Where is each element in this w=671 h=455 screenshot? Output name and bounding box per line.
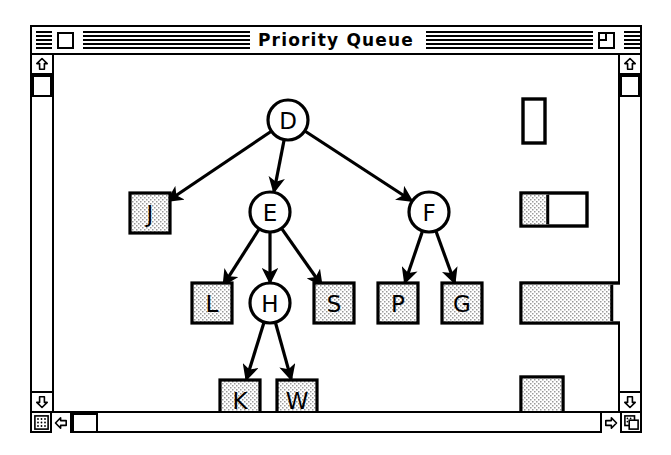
tree-node-D[interactable]: D <box>268 100 308 140</box>
vertical-indicator[interactable] <box>523 99 545 143</box>
tree-nodes: DJEFLHSPGKW <box>130 100 482 413</box>
tree-node-label: F <box>422 200 435 226</box>
left-vertical-scrollbar[interactable] <box>32 55 52 411</box>
tree-node-G[interactable]: G <box>442 283 482 323</box>
priority-queue-window: Priority Queue DJEFLHSPGK <box>30 25 642 433</box>
tree-edge <box>168 132 270 201</box>
tree-edge <box>276 323 291 379</box>
scroll-left-arrow[interactable] <box>52 413 72 433</box>
large-progress-bar[interactable] <box>521 283 626 323</box>
tree-edge <box>306 131 412 200</box>
horizontal-scrollbar[interactable] <box>52 411 620 431</box>
title-bar-stripes-left <box>36 31 52 49</box>
tree-node-H[interactable]: H <box>250 283 290 323</box>
close-box[interactable] <box>57 32 74 49</box>
tree-node-J[interactable]: J <box>130 193 170 233</box>
scroll-down-arrow-right[interactable] <box>620 391 640 411</box>
tree-node-label: W <box>286 388 309 413</box>
tree-edge <box>405 232 422 282</box>
left-vertical-scroll-thumb[interactable] <box>32 75 52 97</box>
tree-edge <box>224 230 259 285</box>
filled-square[interactable] <box>521 377 563 413</box>
window-title-bar[interactable]: Priority Queue <box>32 27 640 55</box>
tree-node-label: J <box>145 201 154 227</box>
grow-box[interactable] <box>620 411 640 431</box>
grow-box-icon <box>624 415 639 430</box>
scroll-up-arrow-right[interactable] <box>620 55 640 75</box>
arrow-down-icon <box>35 395 49 409</box>
arrow-down-icon <box>623 395 637 409</box>
tree-node-F[interactable]: F <box>409 192 449 232</box>
title-bar-stripes-mid-right <box>426 31 593 49</box>
tree-edge <box>436 232 454 283</box>
scroll-down-arrow-left[interactable] <box>32 391 52 411</box>
right-vertical-scroll-thumb[interactable] <box>620 75 640 97</box>
tree-node-K[interactable]: K <box>220 380 260 413</box>
size-box[interactable] <box>32 411 52 431</box>
arrow-up-icon <box>623 57 637 71</box>
tree-node-label: G <box>453 291 471 317</box>
tree-node-label: S <box>327 291 342 317</box>
tree-edge <box>274 141 284 192</box>
right-vertical-scrollbar[interactable] <box>620 55 640 411</box>
tree-node-label: H <box>261 291 278 317</box>
tree-node-label: E <box>263 200 278 226</box>
window-title: Priority Queue <box>250 30 422 50</box>
title-bar-stripes-mid-left <box>83 31 250 49</box>
small-progress-bar[interactable] <box>521 193 587 226</box>
tree-node-label: K <box>232 388 248 413</box>
scroll-up-arrow-left[interactable] <box>32 55 52 75</box>
window-content-area: DJEFLHSPGKW <box>52 55 620 411</box>
horizontal-scroll-thumb[interactable] <box>72 413 98 433</box>
tree-node-label: P <box>391 291 405 317</box>
arrow-right-icon <box>604 416 618 430</box>
tree-node-P[interactable]: P <box>378 283 418 323</box>
arrow-left-icon <box>54 416 68 430</box>
scroll-right-arrow[interactable] <box>600 413 620 433</box>
tree-node-S[interactable]: S <box>314 283 354 323</box>
zoom-box[interactable] <box>598 32 615 49</box>
tree-node-label: L <box>206 291 219 317</box>
title-bar-stripes-right <box>624 31 640 49</box>
tree-node-L[interactable]: L <box>192 283 232 323</box>
tree-edge <box>247 323 264 379</box>
tree-node-W[interactable]: W <box>277 380 317 413</box>
tree-edges <box>168 131 454 379</box>
tree-edge <box>282 229 321 285</box>
size-box-icon <box>34 415 49 430</box>
gauge-widgets <box>521 99 626 413</box>
priority-queue-tree-diagram: DJEFLHSPGKW <box>54 55 626 413</box>
screen: Priority Queue DJEFLHSPGK <box>0 0 671 455</box>
tree-node-label: D <box>279 108 297 134</box>
tree-node-E[interactable]: E <box>250 192 290 232</box>
arrow-up-icon <box>35 57 49 71</box>
